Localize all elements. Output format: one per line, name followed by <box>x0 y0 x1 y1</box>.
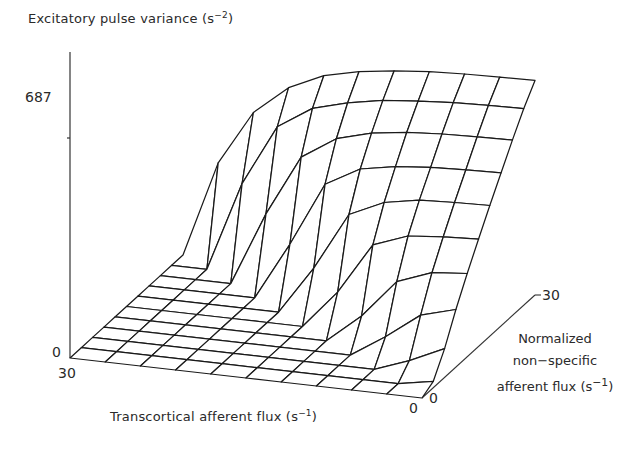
y-tick-start: 0 <box>429 390 438 406</box>
y-axis-label: Normalized non−specific afferent flux (s… <box>470 328 640 398</box>
x-axis-label: Transcortical afferent flux (s−1) <box>110 408 317 424</box>
z-tick-max: 687 <box>25 89 52 105</box>
x-tick-start: 30 <box>58 365 76 381</box>
z-tick-zero: 0 <box>52 344 61 360</box>
x-tick-end: 0 <box>409 400 418 416</box>
y-tick-end: 30 <box>542 287 560 303</box>
cropped-caption-text: · · · · · · · · · · · · · · · · · · · <box>0 452 641 460</box>
y-axis-label-line-2: non−specific <box>470 350 640 372</box>
z-axis-label: Excitatory pulse variance (s−2) <box>28 10 233 26</box>
y-axis-label-line-3: afferent flux (s−1) <box>470 372 640 398</box>
y-axis-label-line-1: Normalized <box>470 328 640 350</box>
